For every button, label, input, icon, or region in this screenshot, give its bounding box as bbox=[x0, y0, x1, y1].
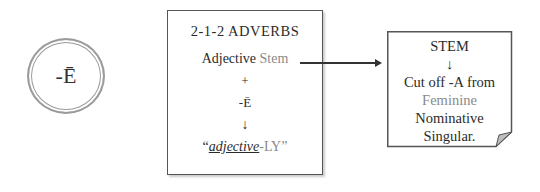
stem-word: Stem bbox=[260, 51, 289, 66]
down-arrow-icon: ↓ bbox=[168, 114, 322, 136]
note-line-3: Nominative bbox=[387, 109, 512, 127]
note-down-arrow-icon: ↓ bbox=[387, 55, 512, 73]
result-line: “adjective-LY” bbox=[168, 136, 322, 158]
stem-note: STEM ↓ Cut off -A from Feminine Nominati… bbox=[387, 31, 512, 147]
note-line-2: Feminine bbox=[387, 91, 512, 109]
connector-arrow-icon bbox=[300, 62, 380, 64]
note-line-4: Singular. bbox=[387, 127, 512, 145]
plus-sign: + bbox=[168, 70, 322, 92]
ending-circle: -Ē bbox=[27, 38, 105, 114]
box-title: 2-1-2 ADVERBS bbox=[168, 23, 322, 40]
ly-suffix: -LY” bbox=[259, 139, 287, 154]
adjective-italic: adjective bbox=[209, 139, 260, 154]
ending-text: -Ē bbox=[168, 92, 322, 114]
adverb-formation-box: 2-1-2 ADVERBS Adjective Stem + -Ē ↓ “adj… bbox=[167, 10, 323, 175]
adjective-stem-line: Adjective Stem bbox=[168, 48, 322, 70]
note-title: STEM bbox=[387, 37, 512, 55]
note-line-1: Cut off -A from bbox=[387, 73, 512, 91]
circle-label: -Ē bbox=[56, 63, 77, 89]
adjective-word: Adjective bbox=[202, 51, 256, 66]
note-text: STEM ↓ Cut off -A from Feminine Nominati… bbox=[387, 37, 512, 145]
